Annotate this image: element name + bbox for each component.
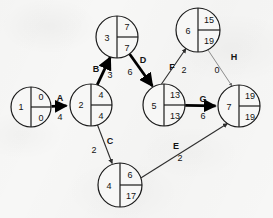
- edge-A-duration: 4: [57, 113, 62, 122]
- node-3-latest: 7: [124, 44, 129, 53]
- node-4-number: 4: [106, 182, 111, 191]
- edge-H-label: H: [231, 53, 238, 62]
- node-7-number: 7: [226, 103, 231, 112]
- edge-A-label: A: [57, 94, 64, 103]
- nodes-layer: [11, 8, 260, 207]
- edge-H-line: [208, 50, 232, 86]
- edge-G-label: G: [199, 95, 206, 104]
- node-3[interactable]: [96, 16, 138, 58]
- edge-F-label: F: [169, 63, 175, 72]
- edge-C-label: C: [107, 137, 114, 146]
- node-2-number: 2: [78, 101, 83, 110]
- node-2-latest: 4: [98, 112, 103, 121]
- edge-E-label: E: [173, 142, 179, 151]
- node-1-earliest: 0: [38, 93, 43, 102]
- network-graph-svg: [0, 0, 273, 218]
- node-6-latest: 19: [204, 37, 214, 46]
- node-4-latest: 17: [126, 192, 136, 201]
- node-1[interactable]: [11, 87, 51, 127]
- edge-D-duration: 6: [127, 68, 132, 77]
- edge-D-label: D: [140, 56, 147, 65]
- edge-B-duration: 3: [107, 71, 112, 80]
- edge-E-line: [140, 124, 228, 179]
- node-3-number: 3: [104, 34, 109, 43]
- edge-C-duration: 2: [91, 146, 96, 155]
- node-2[interactable]: [70, 84, 112, 126]
- edge-G-duration: 6: [200, 112, 205, 121]
- node-6-earliest: 15: [204, 16, 214, 25]
- edge-E-duration: 2: [177, 154, 182, 163]
- node-5-number: 5: [151, 102, 156, 111]
- node-7-latest: 19: [245, 113, 255, 122]
- edge-B-label: B: [93, 65, 100, 74]
- node-1-number: 1: [18, 103, 23, 112]
- edge-A-line: [52, 106, 67, 107]
- node-5-earliest: 13: [170, 91, 180, 100]
- edge-F-duration: 2: [181, 66, 186, 75]
- node-6-number: 6: [185, 27, 190, 36]
- diagram-canvas: 1 0 0 2 4 4 3 7 7 4 6 17 5 13 13 6 15 19…: [0, 0, 273, 218]
- node-1-latest: 0: [38, 114, 43, 123]
- edge-G-line: [185, 105, 215, 106]
- edge-H-duration: 0: [214, 66, 219, 75]
- node-4-earliest: 6: [127, 171, 132, 180]
- node-2-earliest: 4: [98, 91, 103, 100]
- node-3-earliest: 7: [124, 23, 129, 32]
- node-7-earliest: 19: [245, 92, 255, 101]
- node-5-latest: 13: [170, 112, 180, 121]
